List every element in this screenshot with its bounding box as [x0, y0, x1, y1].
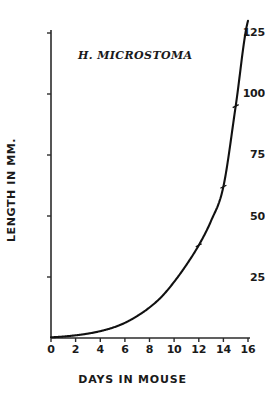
chart-figure: 125 100 75 50 25 0 2 4 6 8 10 12 14 16 L…	[0, 0, 265, 405]
growth-curve	[51, 21, 248, 337]
plot-area	[0, 0, 265, 405]
